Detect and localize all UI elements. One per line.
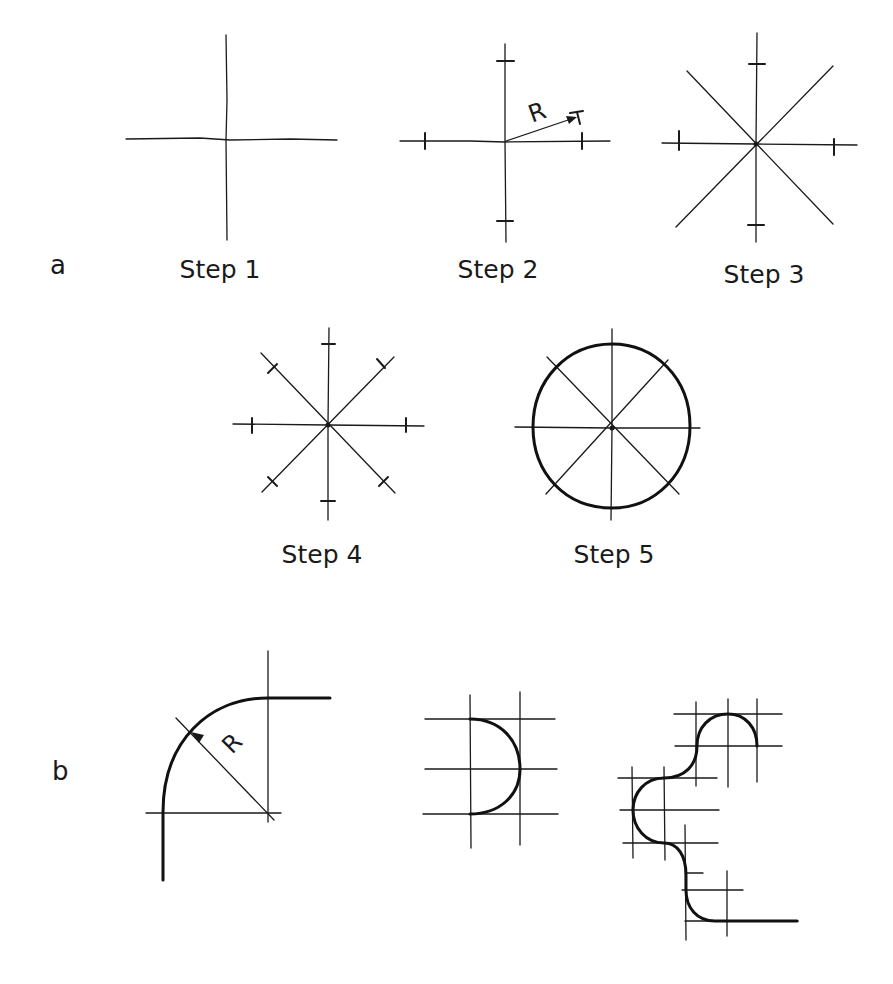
step3-caption: Step 3 (724, 260, 805, 289)
b-curve-grid-v5 (664, 767, 665, 860)
step3-diagonal-nw-se (687, 71, 833, 224)
step2-caption: Step 2 (458, 255, 539, 284)
step4-caption: Step 4 (282, 540, 363, 569)
step3-horizontal-line (662, 143, 857, 145)
step5-figure (515, 329, 700, 520)
step2-compass-stem (577, 112, 580, 124)
step5-caption: Step 5 (574, 540, 655, 569)
step5-diagonal-nw-se (547, 357, 679, 494)
b-corner-arc-figure: R (146, 651, 330, 880)
b-corner-radius-arrowhead (191, 732, 204, 743)
b-compound-curve-figure (618, 699, 798, 940)
step1-vertical-line (226, 35, 227, 240)
drawing-canvas: R (0, 0, 893, 984)
part-label-b: b (52, 756, 69, 786)
step3-center-point (754, 142, 759, 147)
step4-figure (233, 328, 424, 520)
step2-radius-label: R (524, 96, 549, 128)
step2-vertical-line (505, 44, 506, 242)
b-semi-arc (470, 719, 520, 814)
b-corner-radius-label: R (216, 728, 248, 760)
step4-center-point (326, 423, 331, 428)
step3-figure (662, 33, 857, 242)
step5-center-point (610, 426, 615, 431)
step3-diagonal-sw-ne (676, 66, 833, 227)
step1-horizontal-line (126, 138, 337, 140)
step4-tick-ne (377, 359, 385, 368)
step1-figure (126, 35, 337, 240)
b-semicircle-figure (423, 692, 558, 848)
step2-figure: R (400, 44, 610, 242)
b-corner-arc-path (163, 698, 330, 880)
step1-caption: Step 1 (180, 255, 261, 284)
part-label-a: a (50, 250, 66, 280)
step2-radius-arrowhead (566, 116, 577, 124)
